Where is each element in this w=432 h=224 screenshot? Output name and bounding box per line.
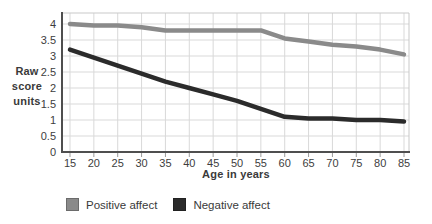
y-tick-label: 1	[50, 114, 56, 126]
legend-item-positive-affect: Positive affect	[66, 198, 157, 211]
y-tick-label: 3	[50, 50, 56, 62]
y-tick-label: 4	[50, 18, 56, 30]
chart-canvas: 00.511.522.533.5415202530354045505560657…	[0, 0, 432, 224]
y-tick-label: 0	[50, 146, 56, 158]
line-chart: 00.511.522.533.5415202530354045505560657…	[0, 0, 432, 224]
positive-affect-swatch-icon	[66, 198, 79, 211]
y-axis-title: Raw score units	[4, 64, 50, 109]
legend-label: Positive affect	[86, 199, 157, 211]
legend-label: Negative affect	[193, 199, 270, 211]
y-tick-label: 3.5	[41, 34, 56, 46]
y-tick-label: 2	[50, 82, 56, 94]
negative-affect-swatch-icon	[173, 198, 186, 211]
y-tick-label: 0.5	[41, 130, 56, 142]
chart-legend: Positive affect Negative affect	[66, 198, 270, 211]
legend-item-negative-affect: Negative affect	[173, 198, 270, 211]
x-axis-title: Age in years	[62, 168, 410, 180]
